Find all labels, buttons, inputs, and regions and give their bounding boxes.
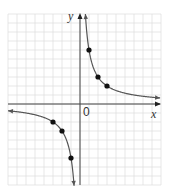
x-axis-label: x <box>151 108 156 120</box>
curves <box>8 14 160 186</box>
data-point <box>104 83 109 88</box>
data-point <box>50 119 55 124</box>
hyperbola-chart <box>0 0 169 196</box>
origin-label: 0 <box>83 106 90 118</box>
data-point <box>86 47 91 52</box>
data-point <box>59 128 64 133</box>
data-point <box>68 155 73 160</box>
grid <box>8 14 161 185</box>
y-axis-label: y <box>68 10 73 22</box>
axes <box>8 13 161 185</box>
data-point <box>95 74 100 79</box>
